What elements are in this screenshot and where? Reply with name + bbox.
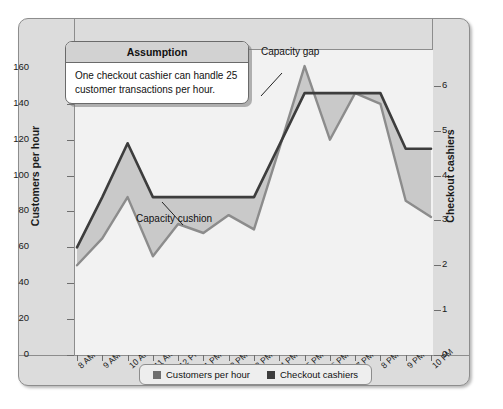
y-tick-left-20: 20 [0, 312, 29, 323]
y-tick-right-6: 6 [442, 79, 472, 90]
y-tick-right-5: 5 [442, 124, 472, 135]
assumption-title: Assumption [66, 42, 248, 63]
y-axis-left-title: Customers per hour [29, 106, 41, 246]
y-tick-right-2: 2 [442, 258, 472, 269]
legend-label-1: Checkout cashiers [280, 369, 358, 380]
y-tickmark-right-3 [434, 220, 441, 221]
assumption-text: One checkout cashier can handle 25 custo… [66, 63, 248, 103]
legend-swatch-icon-0 [153, 371, 161, 379]
y-tickmark-right-1 [434, 310, 441, 311]
y-tick-right-1: 1 [442, 303, 472, 314]
y-tickmark-left-100 [67, 176, 74, 177]
y-tick-right-3: 3 [442, 213, 472, 224]
capacity-gap-leader-line [261, 73, 282, 96]
y-tick-left-40: 40 [0, 276, 29, 287]
legend-label-0: Customers per hour [166, 369, 250, 380]
chart-figure: Customers per hour Checkout cashiers 020… [18, 18, 470, 386]
y-tickmark-left-0 [67, 355, 74, 356]
y-tickmark-right-2 [434, 265, 441, 266]
y-tickmark-right-4 [434, 176, 441, 177]
legend-swatch-icon-1 [267, 371, 275, 379]
y-tick-left-100: 100 [0, 169, 29, 180]
y-tick-left-0: 0 [0, 348, 29, 359]
y-tickmark-left-80 [67, 211, 74, 212]
y-tickmark-left-60 [67, 247, 74, 248]
y-tickmark-right-6 [434, 86, 441, 87]
legend-item-1[interactable]: Checkout cashiers [267, 369, 358, 380]
y-tick-left-160: 160 [0, 61, 29, 72]
y-tick-left-140: 140 [0, 97, 29, 108]
legend-item-0[interactable]: Customers per hour [153, 369, 250, 380]
y-tickmark-left-40 [67, 283, 74, 284]
y-tick-left-80: 80 [0, 204, 29, 215]
y-tickmark-right-5 [434, 131, 441, 132]
y-tickmark-left-20 [67, 319, 74, 320]
assumption-callout: Assumption One checkout cashier can hand… [65, 41, 249, 104]
y-tick-left-60: 60 [0, 240, 29, 251]
chart-legend: Customers per hourCheckout cashiers [139, 364, 372, 385]
annotation-capacity-cushion: Capacity cushion [136, 213, 212, 224]
y-tick-right-4: 4 [442, 169, 472, 180]
y-tick-left-120: 120 [0, 133, 29, 144]
y-tickmark-left-120 [67, 140, 74, 141]
annotation-capacity-gap: Capacity gap [261, 46, 319, 57]
